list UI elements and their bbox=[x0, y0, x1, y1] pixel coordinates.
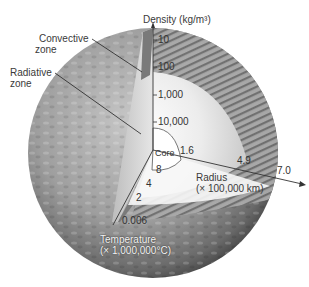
radius-axis-title: Radius (× 100,000 km) bbox=[196, 172, 264, 194]
radiative-zone-label: Radiative zone bbox=[10, 67, 52, 89]
convective-zone-label: Convective zone bbox=[39, 33, 88, 55]
density-tick-10: 10 bbox=[158, 35, 169, 45]
temperature-axis-title: Temperature (× 1,000,000°C) bbox=[100, 234, 171, 256]
temperature-tick-2: 2 bbox=[136, 193, 142, 203]
density-tick-100: 100 bbox=[158, 62, 175, 72]
radius-tick-7-0: 7.0 bbox=[277, 166, 291, 176]
density-tick-10000: 10,000 bbox=[158, 117, 189, 127]
sun-cutaway-diagram: Convective zone Radiative zone Density (… bbox=[0, 0, 309, 287]
core-label: Core bbox=[155, 148, 175, 158]
radius-tick-1-6: 1.6 bbox=[180, 146, 194, 156]
density-tick-1000: 1,000 bbox=[158, 90, 183, 100]
density-axis-title: Density (kg/m³) bbox=[143, 14, 211, 25]
temperature-tick-0-006: 0.006 bbox=[122, 216, 147, 226]
temperature-tick-8: 8 bbox=[156, 165, 162, 175]
radius-tick-4-9: 4.9 bbox=[237, 156, 251, 166]
temperature-tick-4: 4 bbox=[146, 179, 152, 189]
